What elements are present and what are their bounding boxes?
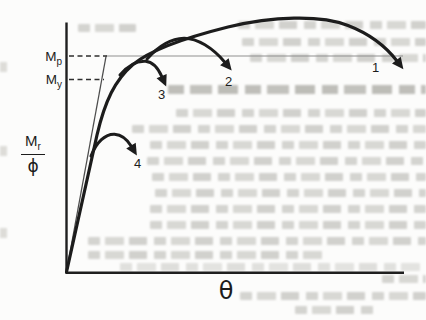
my-label-sub: y xyxy=(57,79,62,90)
curve-2-label: 2 xyxy=(225,74,232,89)
my-label: My xyxy=(36,71,62,93)
curve-1-label: 1 xyxy=(372,60,379,75)
y-axis-label: Mr ϕ xyxy=(15,132,51,176)
my-label-main: M xyxy=(46,72,57,87)
y-axis-label-numerator: Mr xyxy=(21,132,45,155)
scanned-figure-page: Mp My Mr ϕ θ 1 2 3 4 xyxy=(0,0,426,320)
mr-label-sub: r xyxy=(38,141,41,152)
curve-3-label: 3 xyxy=(158,87,165,102)
curve-4-label: 4 xyxy=(134,156,141,171)
mr-label-main: M xyxy=(25,132,38,149)
mp-label-main: M xyxy=(45,49,56,64)
mp-label-sub: p xyxy=(56,56,62,67)
phi-symbol: ϕ xyxy=(15,156,51,176)
moment-rotation-plot xyxy=(0,0,426,320)
x-axis-label: θ xyxy=(212,277,240,305)
mp-label: Mp xyxy=(36,48,62,70)
curve-3 xyxy=(120,61,162,77)
